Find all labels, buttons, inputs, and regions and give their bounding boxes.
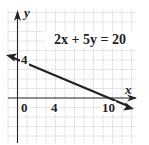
graph — [0, 0, 149, 145]
x-tick-4-label: 4 — [50, 101, 59, 114]
origin-label: 0 — [20, 101, 29, 114]
x-tick-10-label: 10 — [101, 101, 116, 114]
y-tick-4-label: 4 — [20, 53, 29, 66]
y-axis-label: y — [24, 6, 30, 19]
grid — [8, 10, 136, 143]
x-axis-label: x — [125, 83, 132, 96]
equation-label: 2x + 5y = 20 — [44, 31, 136, 48]
